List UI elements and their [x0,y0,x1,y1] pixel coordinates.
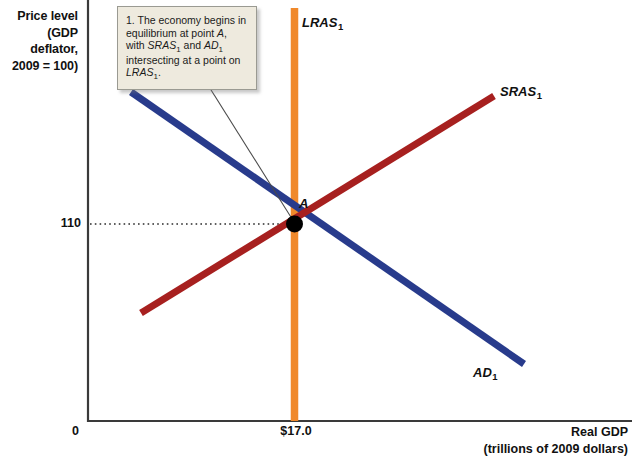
annotation-number: 1. [126,14,135,26]
annotation-sras-sub: 1 [176,45,180,54]
sras-curve [141,96,494,313]
annotation-callout-box: 1. The economy begins in equilibrium at … [117,6,257,90]
lras-curve-label: LRAS1 [302,15,343,30]
y-axis-title-line-4: 2009 = 100) [0,58,78,75]
ad-curve [131,92,524,364]
y-axis-tick-110: 110 [48,216,81,230]
annotation-text-4: intersecting at a point on [126,54,240,66]
axis-origin-label: 0 [72,424,79,438]
annotation-text-1: The economy begins in equilibrium at poi… [126,14,246,39]
y-axis-title-line-2: (GDP [0,25,78,42]
annotation-text-3: and [181,39,204,51]
annotation-ad-sub: 1 [219,45,223,54]
lras-curve-label-text: LRAS [302,15,337,30]
equilibrium-point-a-marker [286,216,303,233]
lras-curve-label-sub: 1 [337,21,343,32]
equilibrium-point-a-label: A [299,196,308,211]
ad-curve-label-text: AD [473,365,492,380]
annotation-ad: AD [204,39,219,51]
ad-curve-label: AD1 [473,365,498,380]
x-axis-title-line-2: (trillions of 2009 dollars) [398,441,628,458]
ad-curve-label-sub: 1 [492,371,498,382]
y-axis-title: Price level (GDP deflator, 2009 = 100) [0,8,78,74]
annotation-text-5: . [158,66,161,78]
sras-curve-label-text: SRAS [500,84,536,99]
annotation-lras-sub: 1 [153,72,157,81]
y-axis-title-line-3: deflator, [0,41,78,58]
sras-curve-label: SRAS1 [500,84,542,99]
x-axis-title: Real GDP (trillions of 2009 dollars) [398,424,628,457]
annotation-sras: SRAS [148,39,177,51]
x-axis-tick-17: $17.0 [268,424,324,438]
sras-curve-label-sub: 1 [536,90,542,101]
annotation-lras: LRAS [126,66,153,78]
x-axis-title-line-1: Real GDP [398,424,628,441]
chart-plot-area [0,0,632,473]
y-axis-title-line-1: Price level [0,8,78,25]
chart-figure: Price level (GDP deflator, 2009 = 100) R… [0,0,632,473]
